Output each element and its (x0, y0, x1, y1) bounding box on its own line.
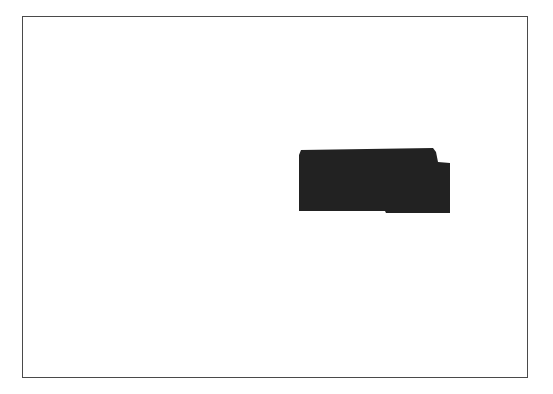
filled-region-shape (0, 0, 553, 394)
dark-region-polygon (299, 148, 450, 213)
figure-canvas (0, 0, 553, 394)
